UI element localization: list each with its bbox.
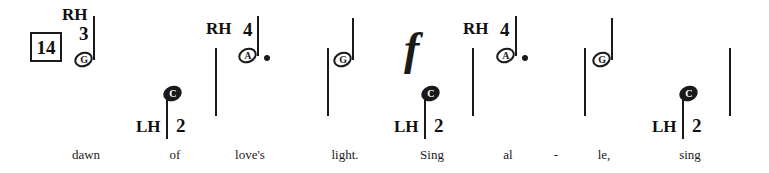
finger-number: 4: [500, 20, 510, 39]
finger-number: 3: [79, 24, 89, 43]
lyric-syllable: dawn: [72, 148, 100, 161]
notehead-c: C: [419, 83, 442, 104]
notehead-letter: G: [598, 55, 606, 65]
measure-number-label: 14: [37, 38, 56, 57]
augmentation-dot: [522, 55, 528, 61]
hand-label-lh: LH: [652, 118, 677, 135]
notehead-letter: A: [502, 51, 509, 61]
lyric-syllable: sing: [679, 148, 701, 161]
lyric-syllable: al: [503, 148, 512, 161]
notehead-c: C: [161, 83, 184, 104]
measure-number-box: 14: [30, 32, 62, 62]
hand-label-rh: RH: [206, 20, 232, 37]
lyric-syllable: -: [554, 148, 558, 161]
notehead-g: G: [331, 49, 354, 70]
lyric-syllable: light.: [331, 148, 358, 161]
note-stem: [424, 96, 426, 139]
notehead-g: G: [72, 49, 95, 70]
lyric-syllable: le,: [598, 148, 611, 161]
finger-number: 4: [243, 20, 253, 39]
notehead-letter: C: [169, 89, 176, 99]
note-stem: [257, 16, 259, 56]
notehead-letter: C: [427, 89, 434, 99]
beat-tick-mark: [215, 48, 217, 116]
notehead-letter: G: [80, 55, 88, 65]
note-stem: [611, 18, 613, 60]
notehead-a: A: [236, 45, 259, 66]
finger-number: 2: [176, 116, 186, 135]
beat-tick-mark: [472, 48, 474, 116]
note-stem: [93, 16, 95, 60]
lyric-syllable: Sing: [420, 148, 444, 161]
notehead-g: G: [590, 49, 613, 70]
note-stem: [682, 96, 684, 139]
notehead-letter: C: [685, 89, 692, 99]
finger-number: 2: [434, 116, 444, 135]
hand-label-lh: LH: [136, 118, 161, 135]
hand-label-rh: RH: [463, 20, 489, 37]
beat-tick-mark: [327, 48, 329, 116]
dynamic-forte: f: [404, 26, 419, 72]
note-stem: [166, 96, 168, 139]
music-score: 14 GCAGCAGC RHRHRHLHLHLH 344222 f dawnof…: [0, 0, 769, 173]
note-stem: [515, 16, 517, 56]
augmentation-dot: [264, 55, 270, 61]
notehead-a: A: [494, 45, 517, 66]
hand-label-lh: LH: [394, 118, 419, 135]
beat-tick-mark: [729, 48, 731, 116]
notehead-letter: G: [339, 55, 347, 65]
lyric-syllable: love's: [235, 148, 265, 161]
notehead-letter: A: [244, 51, 251, 61]
lyric-syllable: of: [170, 148, 181, 161]
note-stem: [352, 18, 354, 60]
hand-label-rh: RH: [62, 6, 88, 23]
beat-tick-mark: [584, 48, 586, 116]
notehead-c: C: [677, 83, 700, 104]
finger-number: 2: [692, 116, 702, 135]
